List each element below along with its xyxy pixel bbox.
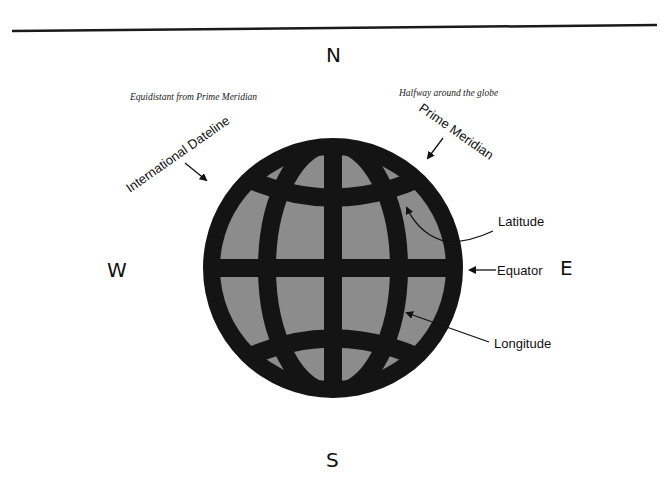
compass-west: W <box>107 258 127 282</box>
globe-diagram: N S W E Equidistant from Prime Meridian … <box>0 0 669 484</box>
note-equidistant: Equidistant from Prime Meridian <box>129 92 257 102</box>
compass-east: E <box>560 256 573 280</box>
label-international-dateline: International Dateline <box>123 113 232 196</box>
arrow-international-dateline <box>185 163 206 180</box>
globe-icon <box>190 130 476 410</box>
label-equator: Equator <box>497 263 543 278</box>
note-halfway: Halfway around the globe <box>398 88 498 98</box>
top-rule <box>12 25 657 31</box>
arrow-prime-meridian <box>428 138 443 158</box>
compass-north: N <box>326 43 341 67</box>
label-longitude: Longitude <box>494 336 551 351</box>
label-latitude: Latitude <box>498 214 544 229</box>
label-prime-meridian: Prime Meridian <box>416 100 496 162</box>
compass-south: S <box>326 448 339 472</box>
